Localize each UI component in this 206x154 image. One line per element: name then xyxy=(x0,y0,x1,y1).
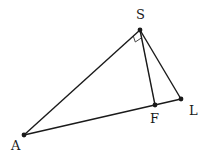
label-S: S xyxy=(136,7,145,22)
segment-SL xyxy=(140,30,181,99)
point-L xyxy=(179,97,184,102)
triangle-diagram: S A F L xyxy=(0,0,206,154)
segment-SF xyxy=(140,30,155,105)
label-L: L xyxy=(189,103,198,118)
label-A: A xyxy=(10,138,21,153)
point-S xyxy=(138,28,143,33)
point-F xyxy=(153,103,158,108)
label-F: F xyxy=(150,111,159,126)
point-A xyxy=(22,133,27,138)
segment-SA xyxy=(24,30,140,135)
right-angle-marker xyxy=(133,36,141,42)
